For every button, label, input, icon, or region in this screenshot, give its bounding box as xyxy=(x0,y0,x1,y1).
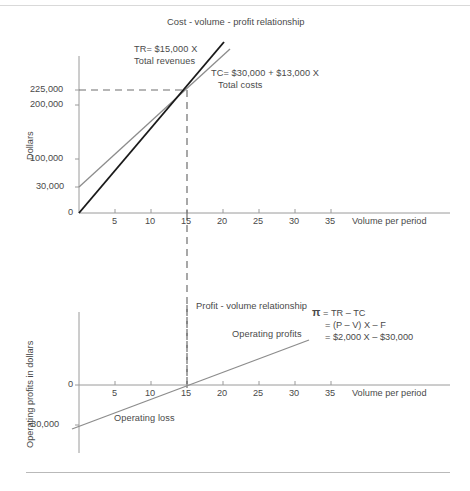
profit-equation-line-3: = $2,000 X – $30,000 xyxy=(312,331,413,343)
tr-symbol: TR xyxy=(134,44,146,54)
tr-equals: = $15,000 xyxy=(146,44,188,54)
top-chart-title: Cost - volume - profit relationship xyxy=(167,16,305,27)
top-xtick-10: 10 xyxy=(145,216,155,226)
tc-equals: = $30,000 + $13,000 xyxy=(223,68,310,78)
operating-profits-label: Operating profits xyxy=(232,329,302,339)
bottom-xtick-15: 15 xyxy=(181,388,191,398)
bottom-xtick-30: 30 xyxy=(289,388,299,398)
top-chart-canvas xyxy=(0,0,470,240)
tc-symbol: TC xyxy=(211,68,223,78)
top-xtick-25: 25 xyxy=(253,216,263,226)
bottom-ytick-0: 0 xyxy=(68,379,73,389)
profit-equation-line-1: π = TR – TC xyxy=(312,306,413,319)
tc-formula-label: TC= $30,000 + $13,000 X xyxy=(211,68,319,78)
tr-variable: X xyxy=(191,44,197,54)
bottom-chart-y-axis-title: Operating profits in dollars xyxy=(25,341,35,448)
bottom-xtick-5: 5 xyxy=(112,388,117,398)
bottom-chart-y-tickmarks xyxy=(75,385,79,425)
bottom-chart-x-tickmarks xyxy=(115,381,331,385)
profit-equation-rhs-1: = TR – TC xyxy=(323,308,365,318)
top-xtick-30: 30 xyxy=(289,216,299,226)
top-chart-y-tickmarks xyxy=(75,90,79,187)
top-chart-x-tickmarks xyxy=(115,209,331,213)
bottom-xtick-20: 20 xyxy=(217,388,227,398)
bottom-chart-x-axis-title: Volume per period xyxy=(352,388,427,398)
cvp-figure: Cost - volume - profit relationship TR= … xyxy=(0,0,470,491)
top-chart-y-axis-title: Dollars xyxy=(25,131,35,160)
tr-formula-label: TR= $15,000 X xyxy=(134,44,197,54)
bottom-xtick-25: 25 xyxy=(253,388,263,398)
top-ytick-30000: 30,000 xyxy=(36,181,64,191)
pi-symbol: π xyxy=(312,306,320,318)
top-ytick-225000: 225,000 xyxy=(30,84,63,94)
profit-equation-line-2: = (P – V) X – F xyxy=(312,319,413,331)
total-revenues-label: Total revenues xyxy=(134,56,195,66)
bottom-xtick-35: 35 xyxy=(325,388,335,398)
total-cost-line xyxy=(79,49,230,187)
top-ytick-200000: 200,000 xyxy=(30,99,63,109)
total-costs-label: Total costs xyxy=(218,80,263,90)
top-chart-x-axis-title: Volume per period xyxy=(352,216,427,226)
profit-equation-block: π = TR – TC = (P – V) X – F = $2,000 X –… xyxy=(312,306,413,343)
top-xtick-20: 20 xyxy=(217,216,227,226)
operating-loss-label: Operating loss xyxy=(114,413,175,423)
top-xtick-5: 5 xyxy=(112,216,117,226)
tc-variable: X xyxy=(313,68,319,78)
bottom-xtick-10: 10 xyxy=(145,388,155,398)
bottom-chart-title: Profit - volume relationship xyxy=(196,300,307,311)
top-xtick-15: 15 xyxy=(181,216,191,226)
top-ytick-0: 0 xyxy=(68,207,73,217)
total-revenue-line xyxy=(79,42,224,213)
top-xtick-35: 35 xyxy=(325,216,335,226)
